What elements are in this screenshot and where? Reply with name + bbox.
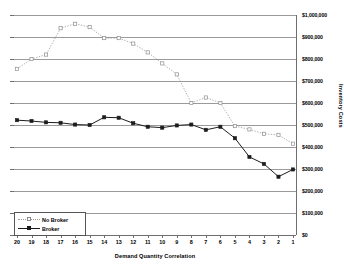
y-axis-tick-label: $200,000 xyxy=(302,188,323,194)
data-point xyxy=(88,123,91,126)
data-point xyxy=(190,123,193,126)
x-tick xyxy=(104,235,105,238)
legend-label-broker: Broker xyxy=(42,226,59,232)
x-axis-tick-label: 8 xyxy=(190,239,193,245)
x-axis-tick-label: 15 xyxy=(87,239,93,245)
legend-item-no-broker[interactable]: No Broker xyxy=(18,215,82,224)
data-point xyxy=(248,155,251,158)
y-axis-tick-label: $500,000 xyxy=(302,122,323,128)
data-point xyxy=(30,57,33,60)
x-axis-tick-label: 2 xyxy=(277,239,280,245)
y-axis-tick-label: $800,000 xyxy=(302,56,323,62)
data-point xyxy=(262,162,265,165)
plot-area xyxy=(14,15,296,235)
data-point xyxy=(103,116,106,119)
x-axis-tick-label: 11 xyxy=(145,239,151,245)
data-point xyxy=(190,101,193,104)
x-tick xyxy=(264,235,265,238)
data-point xyxy=(175,124,178,127)
x-tick xyxy=(119,235,120,238)
data-point xyxy=(44,53,47,56)
data-point xyxy=(15,67,18,70)
x-tick xyxy=(133,235,134,238)
x-axis-tick-label: 16 xyxy=(72,239,78,245)
y-axis-tick-label: $600,000 xyxy=(302,100,323,106)
data-point xyxy=(219,101,222,104)
x-axis-tick-label: 6 xyxy=(219,239,222,245)
y-axis-title: Inventory Costs xyxy=(338,84,344,128)
data-point xyxy=(74,123,77,126)
inventory-costs-chart: $0$100,000$200,000$300,000$400,000$500,0… xyxy=(0,0,344,277)
data-point xyxy=(291,168,294,171)
x-tick xyxy=(148,235,149,238)
data-point xyxy=(219,125,222,128)
y-axis-line xyxy=(296,15,297,235)
x-axis-tick-label: 4 xyxy=(248,239,251,245)
data-point xyxy=(233,137,236,140)
data-point xyxy=(161,62,164,65)
x-axis-tick-label: 13 xyxy=(116,239,122,245)
y-axis-tick-label: $1,000,000 xyxy=(302,12,327,18)
x-axis: 2019181716151413121110987654321 xyxy=(14,235,296,255)
x-tick xyxy=(235,235,236,238)
y-axis-tick-label: $100,000 xyxy=(302,210,323,216)
x-tick xyxy=(278,235,279,238)
data-point xyxy=(146,51,149,54)
data-point xyxy=(30,119,33,122)
series-line-broker xyxy=(17,117,293,176)
x-axis-tick-label: 12 xyxy=(130,239,136,245)
x-tick xyxy=(206,235,207,238)
data-point xyxy=(132,122,135,125)
data-point xyxy=(88,26,91,29)
data-point xyxy=(103,37,106,40)
x-tick xyxy=(191,235,192,238)
data-point xyxy=(117,116,120,119)
legend-item-broker[interactable]: Broker xyxy=(18,224,82,233)
x-axis-title: Demand Quantity Correlation xyxy=(0,253,310,259)
data-point xyxy=(74,22,77,25)
y-axis-tick-label: $400,000 xyxy=(302,144,323,150)
x-axis-tick-label: 7 xyxy=(204,239,207,245)
y-axis-tick-label: $0 xyxy=(302,232,308,238)
data-point xyxy=(175,73,178,76)
series-line-no-broker xyxy=(17,24,293,144)
data-point xyxy=(161,126,164,129)
x-tick xyxy=(220,235,221,238)
legend-key-broker xyxy=(18,224,40,233)
x-axis-tick-label: 20 xyxy=(14,239,20,245)
data-point xyxy=(277,133,280,136)
legend: No Broker Broker xyxy=(14,212,86,236)
y-axis-tick-label: $300,000 xyxy=(302,166,323,172)
x-axis-tick-label: 9 xyxy=(175,239,178,245)
legend-label-no-broker: No Broker xyxy=(42,217,68,223)
data-point xyxy=(117,37,120,40)
y-axis-tick-label: $900,000 xyxy=(302,34,323,40)
data-point xyxy=(204,96,207,99)
data-point xyxy=(132,42,135,45)
data-point xyxy=(59,121,62,124)
x-axis-tick-label: 14 xyxy=(101,239,107,245)
x-tick xyxy=(162,235,163,238)
x-axis-tick-label: 5 xyxy=(233,239,236,245)
x-tick xyxy=(293,235,294,238)
y-axis-tick-label: $700,000 xyxy=(302,78,323,84)
data-point xyxy=(15,119,18,122)
x-axis-tick-label: 3 xyxy=(262,239,265,245)
data-point xyxy=(233,125,236,128)
x-axis-tick-label: 17 xyxy=(58,239,64,245)
data-point xyxy=(146,125,149,128)
data-point xyxy=(248,128,251,131)
data-point xyxy=(291,142,294,145)
series-lines xyxy=(14,15,296,235)
x-tick xyxy=(249,235,250,238)
x-axis-tick-label: 10 xyxy=(159,239,165,245)
data-point xyxy=(262,132,265,135)
x-axis-tick-label: 1 xyxy=(292,239,295,245)
x-axis-tick-label: 19 xyxy=(29,239,35,245)
data-point xyxy=(59,27,62,30)
data-point xyxy=(44,121,47,124)
data-point xyxy=(204,128,207,131)
x-tick xyxy=(90,235,91,238)
data-point xyxy=(277,175,280,178)
x-tick xyxy=(177,235,178,238)
